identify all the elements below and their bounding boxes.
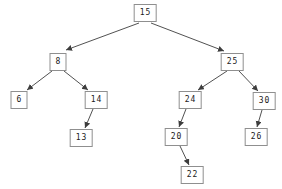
edge-8-14 xyxy=(64,71,88,90)
tree-edges xyxy=(0,0,282,189)
tree-node-15: 15 xyxy=(134,4,157,22)
binary-tree-diagram: 15 8 25 6 14 24 30 13 20 26 22 xyxy=(0,0,282,189)
tree-node-24: 24 xyxy=(179,91,202,109)
tree-node-30: 30 xyxy=(253,92,276,110)
tree-node-20: 20 xyxy=(165,128,188,146)
edge-8-6 xyxy=(27,71,52,90)
edge-15-8 xyxy=(66,23,139,50)
edge-14-13 xyxy=(85,109,93,128)
tree-node-22: 22 xyxy=(181,166,204,184)
edge-25-30 xyxy=(239,71,258,91)
tree-node-26: 26 xyxy=(245,128,268,146)
tree-node-13: 13 xyxy=(70,129,93,147)
tree-node-8: 8 xyxy=(50,53,67,71)
tree-node-14: 14 xyxy=(85,91,108,109)
tree-node-6: 6 xyxy=(11,91,28,109)
edge-20-22 xyxy=(180,146,189,165)
edge-25-24 xyxy=(198,71,227,90)
tree-node-25: 25 xyxy=(221,53,244,71)
edge-24-20 xyxy=(179,109,186,127)
edge-30-26 xyxy=(257,110,262,127)
edge-15-25 xyxy=(151,23,224,51)
